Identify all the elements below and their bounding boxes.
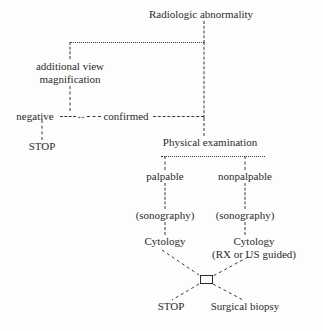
connector-nonpalpable-to-sonography [245,183,246,209]
connector-top-split-bar [70,42,204,43]
connector-arrow-to-confirmed [87,116,101,117]
node-nonpalpable: nonpalpable [218,170,272,182]
node-radiologic-abnormality: Radiologic abnormality [149,8,253,20]
connector-title-stem [204,21,205,43]
connector-right-trunk [204,42,205,118]
node-negative: negative [16,110,53,122]
connector-palpable-to-sonography [165,183,166,209]
connector-confirmed-to-trunk [153,116,204,117]
node-stop-bottom: STOP [158,300,185,312]
connector-negative-to-stop [42,120,43,140]
node-additional-view-line1: additional view [36,60,104,73]
connector-junction-to-stop [172,284,199,300]
node-confirmed: confirmed [103,110,148,122]
connector-trunk-to-physical-exam [204,118,205,136]
connector-junction-to-surgical-biopsy [213,284,243,300]
diagonal-connector-layer [0,0,323,331]
connector-cytology-left-to-junction [162,250,199,275]
node-cytology-left: Cytology [145,235,186,247]
connector-nonpalpable-stem [245,156,246,170]
node-sonography-left: (sonography) [136,209,195,221]
connector-magnification-stem [70,86,71,111]
node-additional-view-magnification: additional view magnification [36,60,104,85]
connector-sonography-right-to-cytology [245,222,246,235]
bidirectional-arrow-icon: ↔ [76,111,86,121]
node-cytology-right-line1: Cytology [212,235,296,248]
node-stop-left: STOP [29,140,56,152]
node-cytology-right: Cytology (RX or US guided) [212,235,296,260]
node-sonography-right: (sonography) [216,209,275,221]
connector-left-branch-stem [70,42,71,59]
node-cytology-right-line2: (RX or US guided) [212,248,296,261]
node-magnification-line2: magnification [36,73,104,86]
node-surgical-biopsy: Surgical biopsy [211,300,280,312]
junction-box-icon [200,275,213,284]
flowchart-canvas: Radiologic abnormality additional view m… [0,0,323,331]
node-physical-examination: Physical examination [163,136,257,148]
connector-palpable-stem [165,156,166,170]
connector-negative-to-arrow [60,116,76,117]
node-palpable: palpable [146,170,183,182]
connector-physical-exam-split-bar [161,156,265,157]
connector-sonography-left-to-cytology [165,222,166,235]
